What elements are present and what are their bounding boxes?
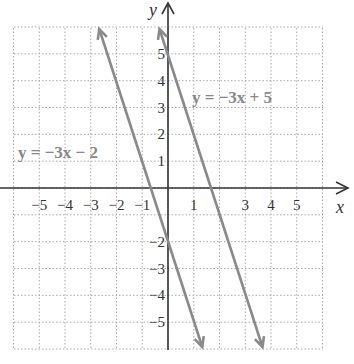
x-tick-label: −2 bbox=[109, 197, 125, 213]
x-tick-label: −4 bbox=[57, 197, 73, 213]
x-tick-label: −5 bbox=[31, 197, 47, 213]
y-tick-label: −3 bbox=[149, 261, 165, 277]
x-tick-label: 4 bbox=[267, 197, 275, 213]
y-tick-label: 2 bbox=[158, 126, 166, 142]
coordinate-plane: −5−4−3−2−1134554321−2−3−4−5 x y y = −3x … bbox=[0, 0, 354, 364]
y-tick-label: 5 bbox=[158, 46, 166, 62]
y-tick-label: 4 bbox=[158, 73, 166, 89]
x-tick-label: 3 bbox=[242, 197, 250, 213]
y-tick-label: −5 bbox=[149, 314, 165, 330]
x-tick-label: 1 bbox=[190, 197, 198, 213]
y-tick-label: 1 bbox=[158, 153, 166, 169]
x-tick-label: −1 bbox=[134, 197, 150, 213]
y-tick-label: −2 bbox=[149, 234, 165, 250]
x-tick-label: 5 bbox=[293, 197, 301, 213]
x-axis-label: x bbox=[335, 197, 344, 217]
x-tick-label: −3 bbox=[83, 197, 99, 213]
line-label-2: y = −3x + 5 bbox=[192, 88, 272, 107]
y-tick-label: −4 bbox=[149, 287, 165, 303]
line-label-1: y = −3x − 2 bbox=[18, 143, 98, 162]
y-axis-label: y bbox=[147, 0, 157, 20]
axes bbox=[0, 3, 348, 350]
y-tick-label: 3 bbox=[158, 100, 166, 116]
